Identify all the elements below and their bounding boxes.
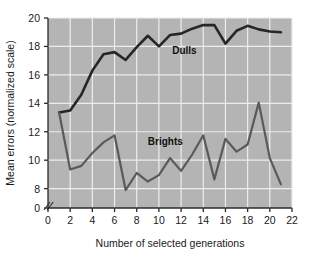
x-tick-label: 0 [45, 214, 51, 226]
x-tick-label: 10 [153, 214, 165, 226]
line-chart: 0246810121416182022 08101214161820 Dulls… [0, 0, 309, 263]
y-tick-label: 10 [28, 154, 40, 166]
y-axis-title: Mean errors (normalized scale) [4, 40, 16, 185]
x-axis-title: Number of selected generations [96, 237, 245, 249]
y-tick-label: 20 [28, 12, 40, 24]
x-tick-label: 4 [89, 214, 95, 226]
y-tick-label: 14 [28, 97, 40, 109]
y-tick-label: 16 [28, 69, 40, 81]
y-tick-label: 12 [28, 126, 40, 138]
x-tick-label: 22 [286, 214, 298, 226]
x-tick-label: 6 [112, 214, 118, 226]
x-tick-label: 8 [134, 214, 140, 226]
x-tick-label: 14 [197, 214, 209, 226]
y-tick-label: 18 [28, 40, 40, 52]
x-tick-label: 12 [175, 214, 187, 226]
y-tick-label: 8 [34, 183, 40, 195]
chart-figure: 0246810121416182022 08101214161820 Dulls… [0, 0, 309, 263]
x-tick-label: 18 [242, 214, 254, 226]
series-label-brights: Brights [148, 136, 183, 147]
series-label-dulls: Dulls [172, 45, 197, 56]
x-tick-label: 16 [220, 214, 232, 226]
x-tick-label: 2 [67, 214, 73, 226]
x-tick-label: 20 [264, 214, 276, 226]
y-tick-label: 0 [34, 202, 40, 214]
